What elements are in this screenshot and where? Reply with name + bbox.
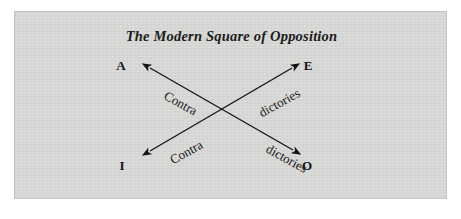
arrow-layer — [15, 12, 448, 200]
vertex-label-a: A — [112, 59, 130, 72]
vertex-label-e: E — [299, 59, 317, 72]
vertex-label-i: I — [113, 159, 131, 172]
diagram-panel: The Modern Square of Opposition A E I O … — [14, 11, 447, 199]
figure-root: The Modern Square of Opposition A E I O … — [0, 0, 461, 219]
